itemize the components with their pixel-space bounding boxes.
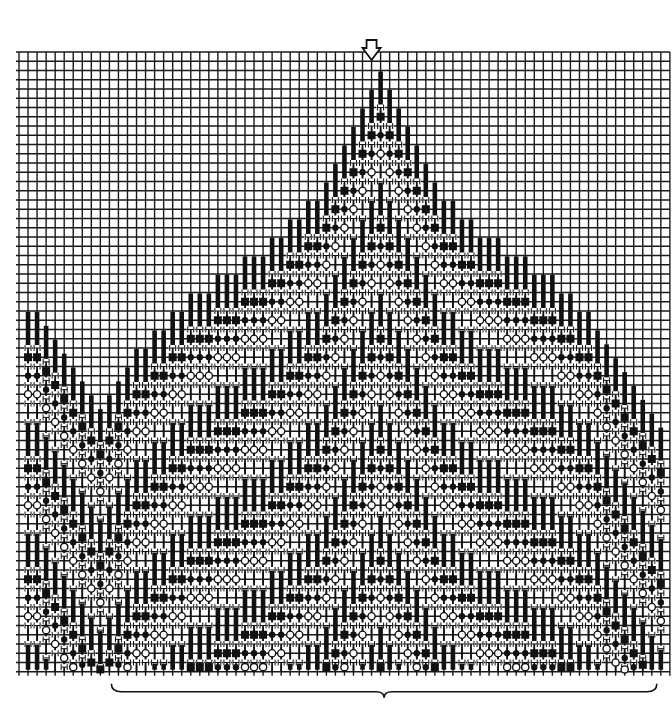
bargello-chart — [0, 0, 672, 720]
repeat-bracket — [111, 684, 656, 698]
center-arrow-icon — [363, 40, 381, 60]
stitch-pattern — [24, 72, 665, 674]
